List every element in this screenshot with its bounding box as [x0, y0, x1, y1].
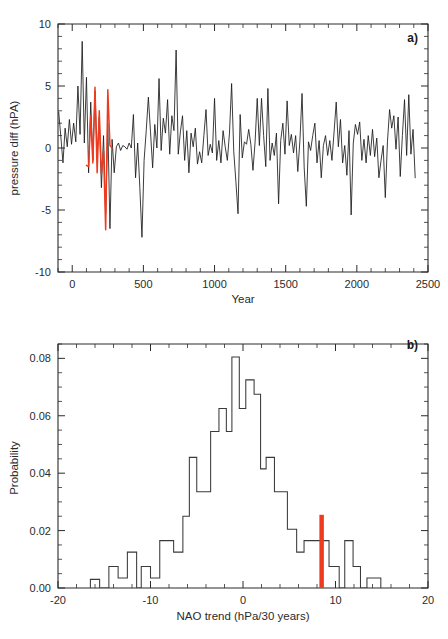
- panel-a-x-tick-label: 0: [69, 278, 75, 290]
- figure-container: 05001000150020002500-10-50510 pressure d…: [0, 0, 448, 639]
- panel-a-y-tick-label: 5: [45, 80, 51, 92]
- panel-a-y-tick-label: 0: [45, 142, 51, 154]
- panel-b-x-tick-label: 20: [422, 594, 434, 606]
- panel-b-x-tick-label: -10: [143, 594, 159, 606]
- panel-b-x-axis-title: NAO trend (hPa/30 years): [177, 610, 310, 622]
- panel-b-y-tick-label: 0.04: [30, 467, 51, 479]
- panel-b-y-axis-title: Probability: [8, 441, 20, 495]
- panel-b-plot-frame: [58, 344, 428, 588]
- panel-a-x-tick-label: 1500: [273, 278, 297, 290]
- panel-a-y-tick-label: -5: [41, 204, 51, 216]
- panel-a-axes: 05001000150020002500-10-50510: [35, 18, 440, 290]
- panel-b-y-tick-label: 0.00: [30, 582, 51, 594]
- panel-a-y-tick-label: -10: [35, 266, 51, 278]
- panel-a-series-control-simulation: [59, 41, 415, 237]
- panel-b-y-tick-label: 0.06: [30, 410, 51, 422]
- panel-a-y-axis-title: pressure diff (hPA): [8, 100, 20, 195]
- panel-a: 05001000150020002500-10-50510 pressure d…: [0, 0, 448, 320]
- panel-b-plot: -20-10010200.000.020.040.060.08 Probabil…: [0, 320, 448, 639]
- panel-a-x-tick-label: 500: [134, 278, 152, 290]
- panel-a-x-tick-label: 2500: [416, 278, 440, 290]
- panel-a-plot-frame: [58, 24, 428, 272]
- panel-b-histogram-outline: [90, 357, 380, 588]
- panel-a-x-tick-label: 2000: [345, 278, 369, 290]
- panel-b-x-tick-label: 0: [240, 594, 246, 606]
- panel-a-x-tick-label: 1000: [202, 278, 226, 290]
- panel-a-label: a): [407, 31, 418, 45]
- panel-a-y-tick-label: 10: [39, 18, 51, 30]
- panel-b: -20-10010200.000.020.040.060.08 Probabil…: [0, 320, 448, 639]
- panel-b-y-tick-label: 0.08: [30, 352, 51, 364]
- panel-a-series: [59, 41, 415, 237]
- panel-b-y-tick-label: 0.02: [30, 525, 51, 537]
- panel-b-histogram: [90, 357, 380, 588]
- panel-b-label: b): [407, 338, 418, 352]
- panel-b-x-tick-label: 10: [329, 594, 341, 606]
- panel-b-x-tick-label: -20: [50, 594, 66, 606]
- panel-a-plot: 05001000150020002500-10-50510 pressure d…: [0, 0, 448, 320]
- panel-a-x-axis-title: Year: [231, 293, 254, 305]
